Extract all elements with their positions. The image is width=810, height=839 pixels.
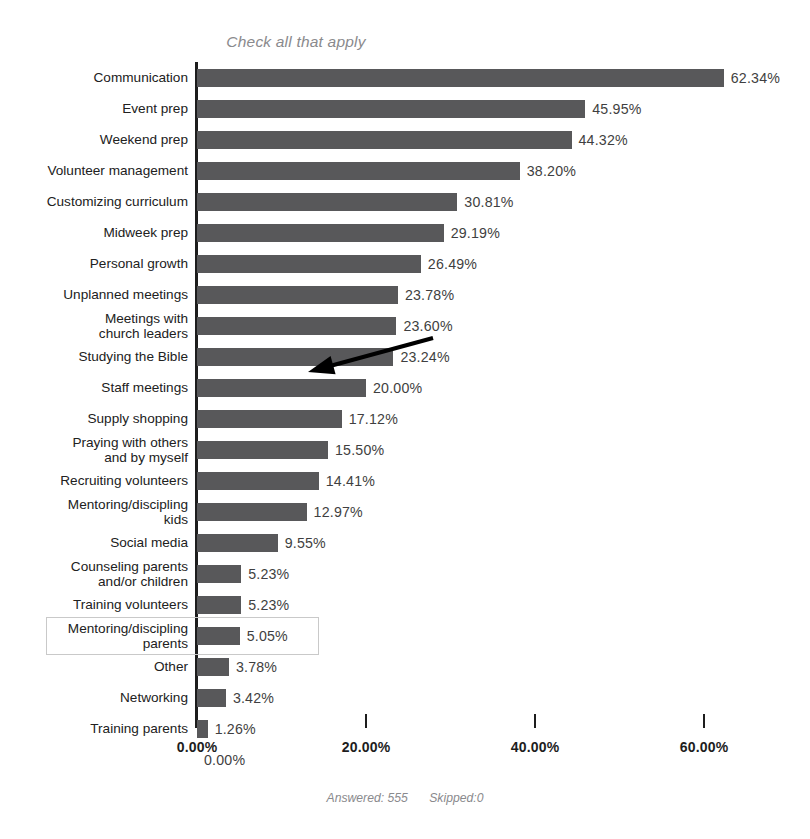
bar-row: Counseling parents and/or children5.23%	[0, 558, 810, 589]
bar-value-label: 26.49%	[428, 256, 477, 272]
bar-row: Other3.78%	[0, 651, 810, 682]
bar-row: Customizing curriculum30.81%	[0, 186, 810, 217]
bar-category-label: Personal growth	[0, 256, 188, 271]
bar-value-label: 5.23%	[248, 597, 289, 613]
bar-row: Recruiting volunteers14.41%	[0, 465, 810, 496]
survey-bar-chart: Check all that apply Communication62.34%…	[0, 0, 810, 839]
bar-value-label: 3.42%	[233, 690, 274, 706]
skipped-count: Skipped:0	[429, 791, 483, 805]
bar-row: Mentoring/discipling parents5.05%	[0, 620, 810, 651]
bar-value-label: 23.60%	[403, 318, 452, 334]
bar-row: Supply shopping17.12%	[0, 403, 810, 434]
bar	[197, 627, 240, 645]
bar-category-label: Social media	[0, 535, 188, 550]
x-axis-tick-label: 40.00%	[475, 739, 595, 755]
bar-row: Unplanned meetings23.78%	[0, 279, 810, 310]
bar-row: Personal growth26.49%	[0, 248, 810, 279]
bar	[197, 689, 226, 707]
bar-row: Praying with others and by myself15.50%	[0, 434, 810, 465]
bar-category-label: Studying the Bible	[0, 349, 188, 364]
bar-row: Staff meetings20.00%	[0, 372, 810, 403]
bar-category-label: Customizing curriculum	[0, 194, 188, 209]
bar-value-label: 44.32%	[579, 132, 628, 148]
bar-category-label: Meetings with church leaders	[0, 310, 188, 341]
bar-row: Mentoring/discipling kids12.97%	[0, 496, 810, 527]
bar-value-label: 62.34%	[731, 70, 780, 86]
bar-category-label: Communication	[0, 70, 188, 85]
bar-value-label: 45.95%	[592, 101, 641, 117]
bar	[197, 131, 572, 149]
bar-row: Meetings with church leaders23.60%	[0, 310, 810, 341]
bar-value-label: 3.78%	[236, 659, 277, 675]
bar	[197, 100, 585, 118]
bar	[197, 317, 396, 335]
bar-category-label: Training volunteers	[0, 597, 188, 612]
bar-category-label: Training parents	[0, 721, 188, 736]
bar-row: Event prep45.95%	[0, 93, 810, 124]
bar-value-label: 20.00%	[373, 380, 422, 396]
bar	[197, 472, 319, 490]
bar	[197, 162, 520, 180]
bar-value-label: 23.78%	[405, 287, 454, 303]
bar-category-label: Counseling parents and/or children	[0, 558, 188, 589]
bar-value-label: 17.12%	[349, 411, 398, 427]
bar-row: Training volunteers5.23%	[0, 589, 810, 620]
bar-category-label: Praying with others and by myself	[0, 434, 188, 465]
bar	[197, 441, 328, 459]
bar	[197, 534, 278, 552]
bar-category-label: Midweek prep	[0, 225, 188, 240]
bar-value-label: 12.97%	[314, 504, 363, 520]
bar	[197, 286, 398, 304]
bar	[197, 565, 241, 583]
bar-category-label: Unplanned meetings	[0, 287, 188, 302]
bar-category-label: Mentoring/discipling parents	[0, 620, 188, 651]
bar-category-label: Recruiting volunteers	[0, 473, 188, 488]
bar-value-label: 29.19%	[451, 225, 500, 241]
bar-row: Networking3.42%	[0, 682, 810, 713]
bar	[197, 348, 393, 366]
bar-value-label: 14.41%	[326, 473, 375, 489]
bar	[197, 379, 366, 397]
x-axis-tick	[365, 714, 367, 728]
bar-category-label: Other	[0, 659, 188, 674]
bar-row: Communication62.34%	[0, 62, 810, 93]
bar-row: Midweek prep29.19%	[0, 217, 810, 248]
bar	[197, 410, 342, 428]
bar-category-label: Event prep	[0, 101, 188, 116]
bar-category-label: Volunteer management	[0, 163, 188, 178]
bar-category-label: Supply shopping	[0, 411, 188, 426]
x-axis-tick-label: 60.00%	[644, 739, 764, 755]
plot-area: Communication62.34%Event prep45.95%Weeke…	[0, 0, 810, 839]
bar	[197, 255, 421, 273]
bar	[197, 720, 208, 738]
answered-count: Answered: 555	[327, 791, 408, 805]
x-axis-tick	[534, 714, 536, 728]
bar	[197, 224, 444, 242]
bar-category-label: Mentoring/discipling kids	[0, 496, 188, 527]
bar-value-label: 9.55%	[285, 535, 326, 551]
bar-value-label: 23.24%	[400, 349, 449, 365]
bar	[197, 69, 724, 87]
bar-row: Studying the Bible23.24%	[0, 341, 810, 372]
bar-value-label: 1.26%	[215, 721, 256, 737]
bar	[197, 503, 307, 521]
bar-value-label: 15.50%	[335, 442, 384, 458]
bar-category-label: Weekend prep	[0, 132, 188, 147]
bar	[197, 596, 241, 614]
bar-category-label: Networking	[0, 690, 188, 705]
x-axis-tick-label: 0.00%	[137, 739, 257, 755]
bar-category-label: Staff meetings	[0, 380, 188, 395]
bar-row: Weekend prep44.32%	[0, 124, 810, 155]
chart-footer: Answered: 555 Skipped:0	[0, 791, 810, 805]
bar	[197, 193, 457, 211]
bar-value-label: 5.23%	[248, 566, 289, 582]
bar-value-label: 30.81%	[464, 194, 513, 210]
bar-value-label: 5.05%	[247, 628, 288, 644]
bar-row: Volunteer management38.20%	[0, 155, 810, 186]
bar-row: Social media9.55%	[0, 527, 810, 558]
bar	[197, 658, 229, 676]
x-axis-tick-label: 20.00%	[306, 739, 426, 755]
x-axis-tick	[703, 714, 705, 728]
bar-value-label: 38.20%	[527, 163, 576, 179]
